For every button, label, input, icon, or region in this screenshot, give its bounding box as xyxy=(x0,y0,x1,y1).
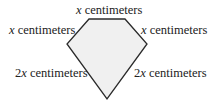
pentagon-shape xyxy=(67,19,147,99)
label-lower-left-side: 2x centimeters xyxy=(15,67,88,80)
unit-text: centimeters xyxy=(146,66,207,80)
label-upper-right-side: x centimeters xyxy=(141,24,207,37)
label-upper-left-side: x centimeters xyxy=(9,24,75,37)
label-lower-right-side: 2x centimeters xyxy=(134,67,207,80)
label-top-side: x centimeters xyxy=(76,4,142,17)
unit-text: centimeters xyxy=(147,23,208,37)
unit-text: centimeters xyxy=(82,3,143,17)
unit-text: centimeters xyxy=(27,66,88,80)
unit-text: centimeters xyxy=(15,23,76,37)
